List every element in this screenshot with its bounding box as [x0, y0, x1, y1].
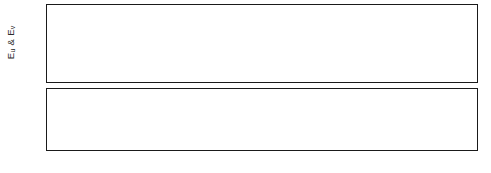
- lower-panel-frame: [47, 89, 478, 151]
- lower-panel-svg: [46, 88, 478, 151]
- upper-panel-frame: [47, 5, 478, 83]
- lower-panel-plot-area: [46, 88, 478, 151]
- figure-root: Eu & Ev: [0, 0, 491, 173]
- upper-panel-y-axis-label: Eu & Ev: [5, 14, 18, 70]
- upper-y-label-text: Eu & Ev: [5, 25, 16, 59]
- upper-panel-svg: [46, 4, 478, 83]
- upper-panel-plot-area: [46, 4, 478, 83]
